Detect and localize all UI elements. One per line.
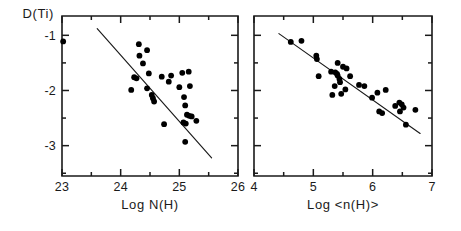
x-tick-label: 4 (250, 180, 257, 194)
data-point (166, 79, 172, 85)
data-point (183, 121, 189, 127)
x-tick-label: 25 (172, 180, 186, 194)
data-point (361, 83, 367, 89)
data-point (193, 118, 199, 124)
data-point (128, 87, 134, 93)
data-point (189, 114, 195, 120)
y-axis-title: D(Ti) (23, 6, 54, 21)
x-axis-title: Log <n(H)> (307, 197, 379, 212)
data-point (182, 139, 188, 145)
data-point (314, 56, 320, 62)
data-point (168, 73, 174, 79)
data-point (176, 84, 182, 90)
data-point (397, 109, 403, 115)
data-point (316, 73, 322, 79)
data-point (288, 39, 294, 45)
data-point (134, 75, 140, 81)
figure-container: 23242526-1-2-3Log N(H)D(Ti) 4567Log <n(H… (0, 0, 461, 231)
data-point (60, 38, 66, 44)
data-point (412, 107, 418, 113)
scatter-panel-right: 4567Log <n(H)> (250, 16, 435, 212)
data-point (181, 94, 187, 100)
data-point (347, 73, 353, 79)
x-tick-label: 5 (310, 180, 317, 194)
data-point (337, 79, 343, 85)
data-point (161, 121, 167, 127)
data-point (379, 110, 385, 116)
y-tick-label: -3 (44, 139, 56, 153)
x-tick-label: 7 (428, 180, 435, 194)
data-point (144, 85, 150, 91)
regression-line (279, 34, 420, 134)
data-point (137, 53, 143, 59)
data-point (186, 69, 192, 75)
data-point (144, 47, 150, 53)
data-point (187, 83, 193, 89)
data-point (344, 66, 350, 72)
data-point (299, 38, 305, 44)
data-point (369, 95, 375, 101)
x-axis-title: Log N(H) (121, 197, 179, 212)
data-point (375, 90, 381, 96)
data-point (179, 70, 185, 76)
x-tick-label: 6 (369, 180, 376, 194)
x-tick-label: 26 (231, 180, 245, 194)
y-tick-label: -1 (44, 29, 56, 43)
x-tick-label: 24 (114, 180, 128, 194)
data-point (338, 91, 344, 97)
data-point (146, 70, 152, 76)
data-point (332, 83, 338, 89)
x-tick-label: 23 (55, 180, 69, 194)
data-point (329, 92, 335, 98)
regression-line (97, 29, 211, 158)
data-point (140, 61, 146, 67)
data-point (136, 41, 142, 47)
data-point (342, 86, 348, 92)
data-point (335, 60, 341, 66)
data-point (159, 74, 165, 80)
scatter-panel-left: 23242526-1-2-3Log N(H)D(Ti) (23, 6, 246, 212)
data-point (182, 102, 188, 108)
data-point (356, 82, 362, 88)
y-tick-label: -2 (44, 84, 56, 98)
data-point (151, 99, 157, 105)
data-point (403, 122, 409, 128)
figure-svg: 23242526-1-2-3Log N(H)D(Ti) 4567Log <n(H… (0, 0, 461, 231)
data-point (383, 87, 389, 93)
